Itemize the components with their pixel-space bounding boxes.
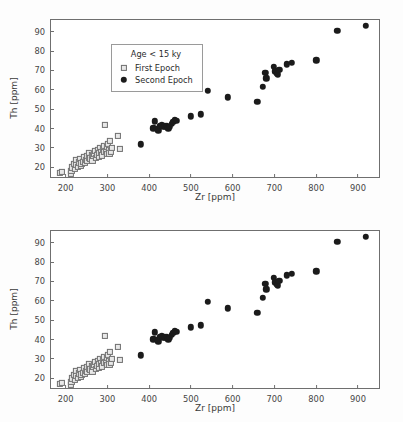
data-point-second-epoch xyxy=(334,28,340,34)
legend-label-first-epoch: First Epoch xyxy=(135,63,180,73)
top-legend: Age < 15 ky First Epoch Second Epoch xyxy=(111,44,203,92)
x-tick-label: 500 xyxy=(183,388,199,404)
x-tick-label: 700 xyxy=(267,177,283,193)
y-tick-label: 80 xyxy=(34,46,51,56)
x-tick-label: 800 xyxy=(308,388,324,404)
data-point-second-epoch xyxy=(362,23,368,29)
x-tick-label: 700 xyxy=(267,388,283,404)
data-point-second-epoch xyxy=(174,329,180,335)
data-point-second-epoch xyxy=(334,239,340,245)
y-tick-label: 30 xyxy=(34,143,51,153)
y-tick-label: 40 xyxy=(34,124,51,134)
legend-label-second-epoch: Second Epoch xyxy=(135,75,193,85)
x-tick-label: 600 xyxy=(225,177,241,193)
data-point-second-epoch xyxy=(276,277,282,283)
data-point-first-epoch xyxy=(59,380,65,386)
top-x-axis-label: Zr [ppm] xyxy=(50,192,380,202)
x-tick-label: 600 xyxy=(225,388,241,404)
x-tick-label: 800 xyxy=(308,177,324,193)
data-point-second-epoch xyxy=(263,75,269,81)
y-tick-label: 90 xyxy=(34,27,51,37)
top-plot-frame: 2030405060708090 20030040050060070080090… xyxy=(50,19,380,178)
x-tick-label: 300 xyxy=(99,177,115,193)
y-tick-label: 60 xyxy=(34,85,51,95)
data-point-first-epoch xyxy=(117,146,123,152)
data-point-second-epoch xyxy=(224,94,230,100)
top-panel: 2030405060708090 20030040050060070080090… xyxy=(0,0,403,211)
data-point-second-epoch xyxy=(138,141,144,147)
data-point-first-epoch xyxy=(108,144,114,150)
y-tick-label: 20 xyxy=(34,373,51,383)
y-tick-label: 70 xyxy=(34,65,51,75)
data-point-first-epoch xyxy=(59,169,65,175)
bottom-plot-frame: 2030405060708090 20030040050060070080090… xyxy=(50,230,380,389)
x-tick-label: 300 xyxy=(99,388,115,404)
data-point-first-epoch xyxy=(108,355,114,361)
y-tick-label: 50 xyxy=(34,104,51,114)
legend-entry-first-epoch: First Epoch xyxy=(119,62,193,74)
data-point-second-epoch xyxy=(260,83,266,89)
data-point-first-epoch xyxy=(107,138,113,144)
data-point-second-epoch xyxy=(313,57,319,63)
bottom-y-axis-label: Th [ppm] xyxy=(9,288,19,329)
data-point-second-epoch xyxy=(138,352,144,358)
data-point-second-epoch xyxy=(224,305,230,311)
y-tick-label: 30 xyxy=(34,354,51,364)
data-point-first-epoch xyxy=(102,333,108,339)
top-data-area xyxy=(51,20,379,177)
y-tick-label: 50 xyxy=(34,315,51,325)
data-point-second-epoch xyxy=(263,286,269,292)
scatter-plot-figure: 2030405060708090 20030040050060070080090… xyxy=(0,0,403,422)
open-square-marker-icon xyxy=(119,64,128,73)
data-point-second-epoch xyxy=(260,294,266,300)
x-tick-label: 200 xyxy=(58,177,74,193)
data-point-second-epoch xyxy=(289,60,295,66)
data-point-second-epoch xyxy=(276,66,282,72)
data-point-second-epoch xyxy=(198,322,204,328)
bottom-data-area xyxy=(51,231,379,388)
x-tick-label: 400 xyxy=(141,177,157,193)
bottom-x-axis-label: Zr [ppm] xyxy=(50,403,380,413)
data-point-second-epoch xyxy=(198,111,204,117)
data-point-second-epoch xyxy=(254,99,260,105)
data-point-first-epoch xyxy=(117,357,123,363)
bottom-panel: 2030405060708090 20030040050060070080090… xyxy=(0,211,403,422)
y-tick-label: 80 xyxy=(34,257,51,267)
x-tick-label: 200 xyxy=(58,388,74,404)
data-point-first-epoch xyxy=(115,343,121,349)
data-point-second-epoch xyxy=(188,113,194,119)
data-point-second-epoch xyxy=(204,298,210,304)
legend-title: Age < 15 ky xyxy=(119,49,193,62)
filled-circle-marker-icon xyxy=(119,76,128,85)
y-tick-label: 90 xyxy=(34,238,51,248)
y-tick-label: 60 xyxy=(34,296,51,306)
top-y-axis-label: Th [ppm] xyxy=(9,77,19,118)
y-tick-label: 20 xyxy=(34,162,51,172)
x-tick-label: 500 xyxy=(183,177,199,193)
data-point-second-epoch xyxy=(254,310,260,316)
x-tick-label: 900 xyxy=(350,177,366,193)
data-point-second-epoch xyxy=(313,268,319,274)
y-tick-label: 70 xyxy=(34,276,51,286)
x-tick-label: 900 xyxy=(350,388,366,404)
data-point-first-epoch xyxy=(102,122,108,128)
data-point-second-epoch xyxy=(188,324,194,330)
data-point-first-epoch xyxy=(115,132,121,138)
data-point-second-epoch xyxy=(362,234,368,240)
legend-entry-second-epoch: Second Epoch xyxy=(119,74,193,86)
data-point-second-epoch xyxy=(174,118,180,124)
x-tick-label: 400 xyxy=(141,388,157,404)
data-point-first-epoch xyxy=(107,349,113,355)
data-point-second-epoch xyxy=(289,271,295,277)
y-tick-label: 40 xyxy=(34,335,51,345)
data-point-second-epoch xyxy=(204,87,210,93)
